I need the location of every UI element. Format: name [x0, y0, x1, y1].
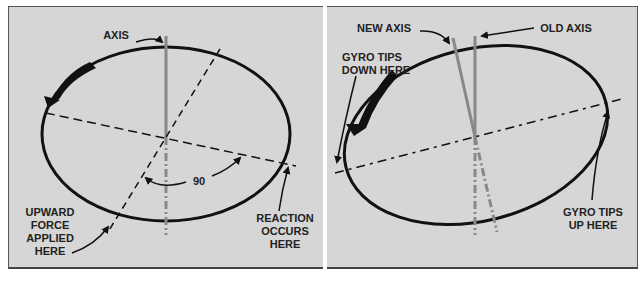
new-axis-line-hidden: [475, 137, 497, 232]
old-axis-label: OLD AXIS: [540, 22, 592, 34]
reaction-label-2: OCCURS: [261, 225, 309, 237]
axis-pointer-arrow-icon: [136, 39, 162, 42]
new-axis-pointer-arrow-icon: [420, 31, 449, 43]
left-diagram: AXIS 90 UPWARD FORCE APPLIED HERE REACTI…: [26, 29, 314, 257]
reaction-label-3: HERE: [270, 238, 301, 250]
reaction-label-1: REACTION: [256, 212, 314, 224]
new-axis-label: NEW AXIS: [357, 22, 411, 34]
old-axis-pointer-arrow-icon: [482, 28, 534, 36]
tilted-diameter: [108, 49, 220, 232]
tips-down-label-1: GYRO TIPS: [342, 51, 402, 63]
new-axis-line: [453, 38, 475, 137]
axis-label: AXIS: [103, 29, 129, 41]
tips-up-label-2: UP HERE: [569, 219, 618, 231]
right-diagram: NEW AXIS OLD AXIS GYRO TIPS DOWN HERE GY…: [325, 19, 627, 251]
tips-down-label-2: DOWN HERE: [342, 64, 410, 76]
horizontal-diameter: [46, 113, 296, 166]
tips-up-label-1: GYRO TIPS: [563, 206, 623, 218]
upward-force-label-3: APPLIED: [26, 232, 74, 244]
spin-plane-diameter: [335, 99, 622, 173]
upward-force-label-2: FORCE: [31, 219, 70, 231]
gyroscope-precession-diagram: AXIS 90 UPWARD FORCE APPLIED HERE REACTI…: [0, 0, 644, 281]
force-pointer-arrow-icon: [72, 227, 108, 253]
angle-label: 90: [193, 175, 205, 187]
upward-force-label-1: UPWARD: [26, 206, 75, 218]
angle-arrow-right-icon: [212, 158, 240, 176]
upward-force-label-4: HERE: [35, 245, 66, 257]
reaction-pointer-arrow-icon: [279, 168, 288, 211]
